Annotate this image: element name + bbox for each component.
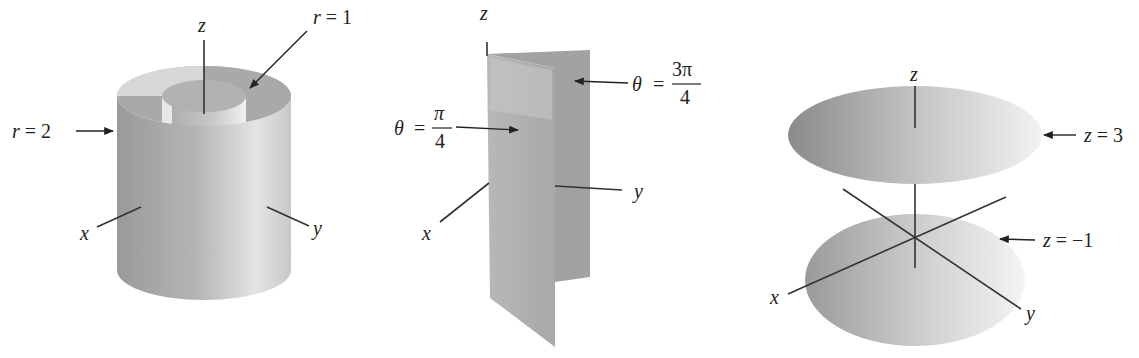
- y-axis-label: y: [632, 180, 643, 203]
- svg-text:π: π: [434, 102, 445, 124]
- pointer-r1: [250, 31, 307, 88]
- z-axis-label: z: [479, 2, 488, 24]
- z-axis-label: z: [197, 14, 206, 36]
- x-axis-label: x: [421, 222, 431, 244]
- x-axis: [440, 183, 489, 222]
- z-axis-label: z: [909, 63, 918, 85]
- svg-text:4: 4: [680, 86, 690, 108]
- svg-text:θ: θ: [394, 117, 404, 139]
- figure-cylinders: z x y r = 1 r = 2: [12, 6, 352, 300]
- outer-cylinder-r2: [117, 96, 291, 300]
- label-r1: r = 1: [313, 6, 352, 28]
- figure-half-planes: z x y θ = π 4 θ = 3π 4: [394, 2, 701, 347]
- y-axis-label: y: [311, 217, 322, 240]
- svg-text:=: =: [653, 73, 664, 95]
- svg-text:θ: θ: [632, 73, 642, 95]
- svg-text:4: 4: [435, 130, 445, 152]
- figure-canvas: z x y r = 1 r = 2 z x y θ = π: [0, 0, 1139, 358]
- label-z3: z = 3: [1083, 124, 1123, 146]
- svg-text:3π: 3π: [672, 58, 692, 80]
- svg-text:=: =: [414, 117, 425, 139]
- x-axis-label: x: [769, 286, 779, 308]
- x-axis-label: x: [79, 222, 89, 244]
- pointer-z-minus-1: [1000, 239, 1035, 240]
- y-axis-label: y: [1024, 302, 1035, 325]
- figure-horizontal-planes: x y z z = 3 z = −1: [769, 63, 1123, 346]
- label-theta-3pi-4: θ = 3π 4: [632, 58, 701, 108]
- label-z-minus-1: z = −1: [1042, 229, 1093, 251]
- label-theta-pi-4: θ = π 4: [394, 102, 452, 152]
- label-r2: r = 2: [12, 120, 51, 142]
